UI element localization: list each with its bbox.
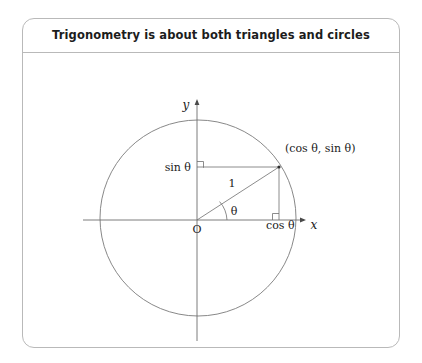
unit-circle-figure: sin θ cos θ 1 θ O x y (cos θ, sin θ): [23, 53, 399, 347]
radius-label: 1: [229, 177, 236, 190]
point-coordinates-label: (cos θ, sin θ): [285, 142, 356, 155]
x-axis-label: x: [311, 218, 318, 232]
angle-label: θ: [231, 205, 238, 218]
radius-line: [197, 167, 279, 220]
x-axis-arrow-icon: [300, 218, 306, 223]
sin-label: sin θ: [165, 161, 192, 174]
y-axis-label: y: [182, 98, 190, 112]
origin-label: O: [192, 223, 201, 236]
cos-label: cos θ: [266, 219, 295, 232]
figure-card: Trigonometry is about both triangles and…: [22, 18, 400, 348]
unit-circle-svg: sin θ cos θ 1 θ O x y (cos θ, sin θ): [23, 53, 399, 347]
page-title: Trigonometry is about both triangles and…: [23, 19, 399, 52]
screenshot-root: Trigonometry is about both triangles and…: [0, 0, 422, 363]
unit-circle: [100, 120, 296, 316]
circle-point-marker: [277, 165, 280, 168]
y-axis-arrow-icon: [195, 99, 200, 105]
